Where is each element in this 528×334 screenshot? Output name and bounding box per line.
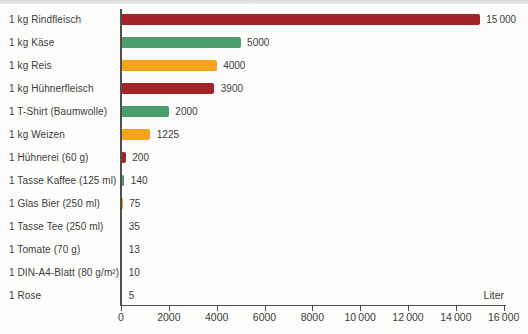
bar-row: 1 Tomate (70 g)13 xyxy=(0,238,528,261)
bar-row: 1 Hühnerei (60 g)200 xyxy=(0,146,528,169)
x-tick-label: 16 000 xyxy=(474,311,528,323)
bar-row: 1 Glas Bier (250 ml)75 xyxy=(0,192,528,215)
x-tick-mark xyxy=(169,306,170,311)
bar-row: 1 kg Rindfleisch15 000 xyxy=(0,8,528,31)
category-label: 1 DIN-A4-Blatt (80 g/m²) xyxy=(9,261,119,284)
category-label: 1 kg Käse xyxy=(9,31,54,54)
value-label: 140 xyxy=(131,169,148,192)
bar-orange xyxy=(121,60,217,72)
category-label: 1 Glas Bier (250 ml) xyxy=(9,192,100,215)
category-label: 1 Hühnerei (60 g) xyxy=(9,146,89,169)
category-label: 1 kg Reis xyxy=(9,54,52,77)
bar-red xyxy=(121,14,480,26)
bar-row: 1 kg Käse5000 xyxy=(0,31,528,54)
category-label: 1 T-Shirt (Baumwolle) xyxy=(9,100,107,123)
bar-row: 1 kg Hühnerfleisch3900 xyxy=(0,77,528,100)
bar-orange xyxy=(121,129,150,141)
value-label: 3900 xyxy=(221,77,243,100)
category-label: 1 kg Rindfleisch xyxy=(9,8,81,31)
bar-row: 1 T-Shirt (Baumwolle)2000 xyxy=(0,100,528,123)
x-tick-mark xyxy=(217,306,218,311)
category-label: 1 Tomate (70 g) xyxy=(9,238,80,261)
axis-unit-label: Liter xyxy=(460,289,504,301)
value-label: 1225 xyxy=(157,123,179,146)
bar-row: 1 Tasse Kaffee (125 ml)140 xyxy=(0,169,528,192)
category-label: 1 kg Hühnerfleisch xyxy=(9,77,94,100)
x-tick-mark xyxy=(312,306,313,311)
bar-green xyxy=(121,106,169,118)
y-axis-line xyxy=(120,9,122,306)
bar-red xyxy=(121,152,126,164)
value-label: 200 xyxy=(132,146,149,169)
water-footprint-bar-chart: 1 kg Rindfleisch15 0001 kg Käse50001 kg … xyxy=(0,0,528,334)
category-label: 1 Tasse Tee (250 ml) xyxy=(9,215,103,238)
x-tick-mark xyxy=(121,306,122,311)
category-label: 1 Tasse Kaffee (125 ml) xyxy=(9,169,117,192)
bar-row: 1 Tasse Tee (250 ml)35 xyxy=(0,215,528,238)
value-label: 4000 xyxy=(223,54,245,77)
bar-row: 1 kg Reis4000 xyxy=(0,54,528,77)
x-tick-mark xyxy=(360,306,361,311)
value-label: 10 xyxy=(129,261,140,284)
category-label: 1 Rose xyxy=(9,284,41,307)
x-tick-mark xyxy=(456,306,457,311)
value-label: 13 xyxy=(129,238,140,261)
x-tick-mark xyxy=(265,306,266,311)
value-label: 5000 xyxy=(247,31,269,54)
bar-row: 1 kg Weizen1225 xyxy=(0,123,528,146)
value-label: 35 xyxy=(129,215,140,238)
value-label: 15 000 xyxy=(486,8,516,31)
value-label: 2000 xyxy=(175,100,197,123)
category-label: 1 kg Weizen xyxy=(9,123,65,146)
x-tick-mark xyxy=(504,306,505,311)
bar-red xyxy=(121,83,214,95)
bar-row: 1 DIN-A4-Blatt (80 g/m²)10 xyxy=(0,261,528,284)
value-label: 75 xyxy=(129,192,140,215)
bar-green xyxy=(121,37,241,49)
x-tick-mark xyxy=(408,306,409,311)
